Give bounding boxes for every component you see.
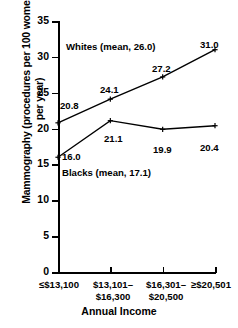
series-line-whites <box>58 50 215 123</box>
y-tick-35: 35 <box>52 21 58 23</box>
x-category-label-3: ≥$20,501 <box>191 279 231 291</box>
y-tick-label-25: 25 <box>37 86 49 98</box>
x-tick-2 <box>163 267 165 273</box>
y-tick-label-0: 0 <box>43 265 49 277</box>
series-annotation-whites: Whites (mean, 26.0) <box>66 41 156 52</box>
x-category-label-0: ≤$13,100 <box>39 279 79 291</box>
y-tick-label-20: 20 <box>37 122 49 134</box>
y-tick-15: 15 <box>52 164 58 166</box>
y-tick-20: 20 <box>52 129 58 131</box>
series-markers-whites <box>55 47 217 125</box>
point-label-blacks-3: 20.4 <box>200 142 219 153</box>
x-tick-0 <box>58 267 60 273</box>
y-tick-label-30: 30 <box>37 50 49 62</box>
point-label-blacks-2: 19.9 <box>153 144 172 155</box>
x-axis-title: Annual Income <box>0 305 238 317</box>
y-tick-label-10: 10 <box>37 193 49 205</box>
point-label-whites-1: 24.1 <box>100 84 119 95</box>
y-tick-label-5: 5 <box>43 229 49 241</box>
y-tick-5: 5 <box>52 236 58 238</box>
y-tick-10: 10 <box>52 200 58 202</box>
series-line-blacks <box>58 121 215 158</box>
x-axis-line <box>58 272 216 274</box>
y-axis-title: Mammography (procedures per 100 women pe… <box>20 0 46 204</box>
x-category-label-1: $13,101– $16,300 <box>93 279 133 302</box>
series-annotation-blacks: Blacks (mean, 17.1) <box>62 167 151 178</box>
point-label-whites-0: 20.8 <box>60 100 79 111</box>
point-label-whites-3: 31.0 <box>200 39 219 50</box>
x-category-label-2: $16,301– $20,500 <box>146 279 186 302</box>
point-label-blacks-0: 16.0 <box>62 151 81 162</box>
y-tick-label-15: 15 <box>37 157 49 169</box>
y-tick-30: 30 <box>52 57 58 59</box>
x-tick-1 <box>110 267 112 273</box>
y-tick-25: 25 <box>52 93 58 95</box>
x-tick-3 <box>215 267 217 273</box>
y-tick-label-35: 35 <box>37 14 49 26</box>
point-label-blacks-1: 21.1 <box>104 133 123 144</box>
y-axis-line <box>58 21 60 273</box>
point-label-whites-2: 27.2 <box>152 63 171 74</box>
mammography-income-line-chart: Mammography (procedures per 100 women pe… <box>0 0 238 328</box>
